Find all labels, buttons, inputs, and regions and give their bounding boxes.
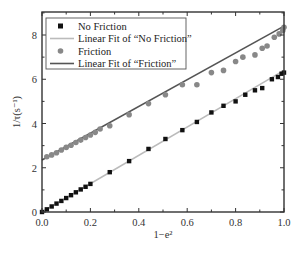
data-point-no-friction [260,86,264,90]
y-tick-label: 2 [32,163,37,174]
data-point-no-friction [209,110,213,114]
x-tick-label: 0.6 [181,217,194,228]
data-point-friction [68,142,74,148]
data-point-no-friction [79,187,83,191]
x-tick-label: 0.4 [132,217,146,228]
data-point-friction [97,126,103,132]
data-point-friction [252,52,258,58]
legend: No FrictionLinear Fit of “No Friction”Fr… [46,18,192,69]
data-point-no-friction [163,137,167,141]
data-point-no-friction [195,120,199,124]
data-point-no-friction [270,77,274,81]
data-point-friction [259,45,265,51]
data-point-no-friction [83,185,87,189]
data-point-friction [107,123,113,129]
x-tick-label: 0.2 [84,217,97,228]
x-tick-label: 0.0 [35,217,48,228]
data-point-friction [233,59,239,65]
x-tick-label: 1.0 [277,217,290,228]
data-point-friction [63,145,69,151]
legend-label: Linear Fit of “Friction” [78,58,177,69]
data-point-no-friction [54,201,58,205]
data-point-friction [146,101,152,107]
data-point-no-friction [221,104,225,108]
legend-label: Linear Fit of “No Friction” [78,33,192,44]
data-point-no-friction [253,88,257,92]
data-point-friction [54,150,60,156]
data-point-friction [272,34,278,40]
data-point-friction [88,132,94,138]
data-point-friction [126,112,132,118]
data-point-friction [264,43,270,49]
data-point-friction [163,92,169,98]
x-tick-label: 0.8 [229,217,242,228]
data-point-friction [92,130,98,136]
data-point-no-friction [146,147,150,151]
legend-square-icon [58,24,63,29]
y-tick-label: 4 [32,119,38,130]
data-point-no-friction [88,182,92,186]
y-tick-label: 0 [32,207,37,218]
data-point-friction [240,54,246,60]
legend-label: No Friction [78,21,127,32]
data-point-no-friction [180,128,184,132]
x-axis-label: 1−e² [154,229,173,240]
legend-circle-icon [58,48,64,54]
data-point-no-friction [64,196,68,200]
data-point-friction [221,68,227,74]
data-point-no-friction [45,207,49,211]
data-point-friction [49,152,55,158]
y-tick-label: 8 [32,30,37,41]
data-point-no-friction [49,204,53,208]
data-point-friction [180,82,186,88]
legend-label: Friction [78,46,112,57]
data-point-friction [59,147,65,153]
data-point-no-friction [233,99,237,103]
data-point-friction [78,137,84,143]
y-tick-label: 6 [32,74,37,85]
data-point-no-friction [108,170,112,174]
data-point-no-friction [74,190,78,194]
data-point-friction [194,82,200,88]
data-point-friction [73,140,79,146]
y-axis-label: 1/τ(s⁻¹) [11,95,23,128]
chart: 0.00.20.40.60.81.002468 No FrictionLinea… [0,0,303,254]
data-point-friction [209,70,215,76]
data-point-friction [83,135,89,141]
data-point-no-friction [243,93,247,97]
data-point-no-friction [59,199,63,203]
data-point-no-friction [127,159,131,163]
data-point-no-friction [69,193,73,197]
data-point-friction [44,154,50,160]
